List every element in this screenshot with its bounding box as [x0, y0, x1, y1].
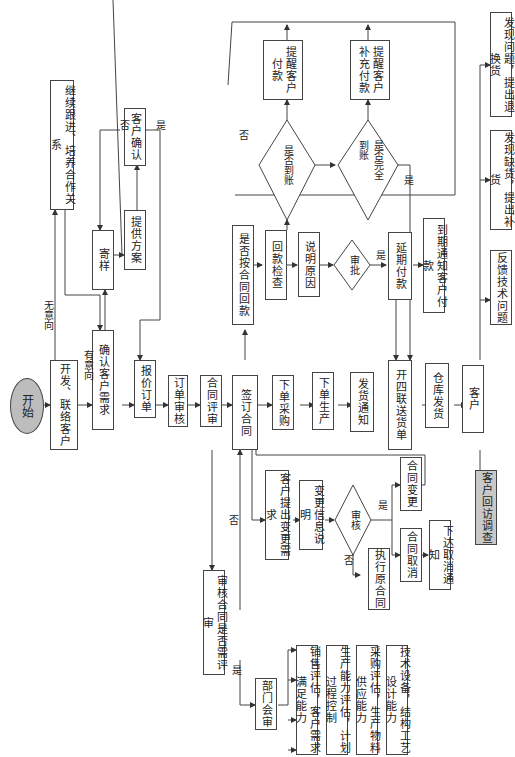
node-customer-confirm: 客户确认	[124, 108, 146, 166]
remind-supplement-label: 提醒客户 补充付款	[356, 46, 384, 94]
node-sign-contract: 签订合同	[232, 375, 258, 450]
node-purchase-order: 下单采购	[272, 375, 294, 430]
notify-due-label: 到期通知客户付款	[420, 219, 448, 312]
defer-pay-label: 延期付款	[393, 242, 407, 290]
approve-label: 审批	[346, 255, 361, 275]
edge-audit-no: 否	[340, 555, 355, 565]
quote-order-label: 报价订单	[138, 365, 152, 413]
node-explain-reason: 说明原因	[298, 232, 320, 297]
customer-visit-label: 客户回访调查	[479, 472, 493, 544]
node-tech-eval: 技术设备，结构工艺设计能力	[386, 645, 408, 755]
node-need-review: 审核合同是否需评审	[203, 570, 225, 675]
node-shortage: 发现缺货，提出补货	[490, 130, 512, 230]
node-send-sample: 寄样	[92, 230, 114, 290]
exec-original-label: 执行原合同	[372, 549, 386, 609]
edge-no-intent: 无意向	[40, 300, 55, 330]
contract-cancel-label: 合同取消	[404, 531, 418, 579]
fully-arrived-label: 是否完全 到账	[355, 140, 385, 180]
need-review-label: 审核合同是否需评审	[200, 571, 228, 674]
node-payment-check: 回款检查	[265, 230, 287, 300]
arrived-label: 是否到账	[280, 145, 295, 185]
change-info-label: 变更信息说明	[297, 481, 325, 549]
node-follow-up: 继续跟进、培养合作关系	[50, 80, 74, 210]
tech-eval-label: 技术设备，结构工艺设计能力	[383, 646, 411, 754]
edge-need-yes: 是	[228, 665, 243, 675]
edge-confirm-yes: 是	[152, 120, 167, 130]
node-delivery-note: 开四联送货单	[388, 360, 412, 450]
customer-label: 客户	[466, 387, 480, 411]
node-customer: 客户	[462, 365, 484, 433]
node-prod-eval: 生产能力评估，计划过程控制	[326, 645, 348, 755]
node-customer-visit: 客户回访调查	[475, 470, 497, 545]
return-exchange-label: 发现问题，提出退换货	[487, 13, 515, 116]
provide-plan-label: 提供方案	[128, 216, 142, 264]
edge-review-no: 否	[225, 515, 240, 525]
follow-up-label: 继续跟进、培养合作关系	[48, 81, 76, 209]
confirm-needs-label: 确认客户需求	[96, 344, 110, 416]
payment-on-time-label: 是否按合同回款	[236, 233, 250, 317]
purchase-order-label: 下单采购	[276, 379, 290, 427]
delivery-note-label: 开四联送货单	[393, 369, 407, 441]
purch-eval-label: 采购评估，生产物料供应能力	[353, 646, 381, 754]
contract-change-label: 合同变更	[404, 460, 418, 508]
order-review-label: 订单审核	[171, 377, 185, 425]
shipping-notice-label: 发货通知	[355, 378, 369, 426]
cancel-notice-label: 下达取消通知	[426, 521, 454, 589]
audit-label: 审核	[347, 510, 362, 530]
node-sales-eval: 销售评估，客户需求满足能力	[296, 645, 318, 755]
node-notify-due: 到期通知客户付款	[423, 218, 445, 313]
edge-audit-yes: 是	[374, 500, 389, 510]
remind-pay-label: 提醒客户 付款	[269, 46, 297, 94]
node-return-exchange: 发现问题，提出退换货	[490, 12, 512, 117]
explain-reason-label: 说明原因	[302, 241, 316, 289]
node-contract-cancel: 合同取消	[400, 528, 422, 582]
sales-eval-label: 销售评估，客户需求满足能力	[293, 646, 321, 754]
node-provide-plan: 提供方案	[124, 210, 146, 270]
dept-review-label: 部门会审	[259, 680, 273, 728]
send-sample-label: 寄样	[96, 248, 110, 272]
tech-feedback-label: 反馈技术问题	[494, 252, 508, 324]
node-exec-original: 执行原合同	[368, 548, 390, 610]
sign-contract-label: 签订合同	[238, 389, 252, 437]
edge-has-intent: 有意向	[80, 350, 95, 380]
shortage-label: 发现缺货，提出补货	[487, 131, 515, 229]
node-dept-review: 部门会审	[255, 678, 277, 730]
start-label: 开始	[19, 394, 36, 418]
node-remind-pay: 提醒客户 付款	[263, 40, 303, 100]
node-production-order: 下单生产	[312, 372, 334, 430]
production-order-label: 下单生产	[316, 377, 330, 425]
node-contract-change: 合同变更	[400, 457, 422, 511]
contract-review-label: 合同评审	[204, 377, 218, 425]
develop-contact-label: 开发、联络客户	[57, 363, 71, 447]
start-node: 开始	[10, 378, 44, 434]
payment-check-label: 回款检查	[269, 241, 283, 289]
warehouse-ship-label: 仓库发货	[430, 372, 444, 420]
node-tech-feedback: 反馈技术问题	[490, 250, 512, 325]
node-defer-pay: 延期付款	[388, 232, 412, 300]
node-change-request: 客户提出变更需求	[265, 470, 289, 560]
node-cancel-notice: 下达取消通知	[429, 520, 451, 590]
node-order-review: 订单审核	[168, 375, 188, 427]
prod-eval-label: 生产能力评估，计划过程控制	[323, 646, 351, 754]
node-change-info: 变更信息说明	[299, 480, 323, 550]
node-shipping-notice: 发货通知	[350, 372, 374, 432]
node-contract-review: 合同评审	[200, 375, 222, 427]
node-remind-supplement: 提醒客户 补充付款	[350, 40, 390, 100]
node-develop-contact: 开发、联络客户	[50, 360, 78, 450]
node-purch-eval: 采购评估，生产物料供应能力	[356, 645, 378, 755]
node-payment-on-time: 是否按合同回款	[232, 225, 254, 325]
edge-payment-no: 否	[235, 130, 250, 140]
edge-fully-yes: 是	[400, 175, 415, 185]
edge-approve-yes: 是	[372, 250, 387, 260]
change-request-label: 客户提出变更需求	[263, 471, 291, 559]
node-quote-order: 报价订单	[134, 360, 156, 418]
node-confirm-needs: 确认客户需求	[92, 330, 114, 430]
edge-confirm-no: 否	[116, 120, 131, 130]
node-warehouse-ship: 仓库发货	[425, 363, 449, 428]
